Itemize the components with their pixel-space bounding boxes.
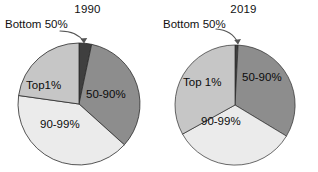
slice-label-50-90-1990: 50-90% xyxy=(86,88,126,101)
pie-slices-1990 xyxy=(18,43,140,165)
pie-slices-2019 xyxy=(175,45,295,165)
slice-label-top-1-2019: Top 1% xyxy=(183,76,221,89)
slice-label-90-99-2019: 90-99% xyxy=(201,115,241,128)
pie-chart-figure: 1990 Bottom 50% Top1% 50-90% 90-99% xyxy=(0,0,318,172)
slice-label-50-90-2019: 50-90% xyxy=(242,71,282,84)
chart-panel-1990: 1990 Bottom 50% Top1% 50-90% 90-99% xyxy=(0,0,159,172)
callout-leader-1990 xyxy=(60,31,87,44)
pie-slice-top-1-1990 xyxy=(19,43,79,104)
callout-leader-2019 xyxy=(216,29,241,45)
chart-panel-2019: 2019 Bottom 50% Top 1% 50-90% 90-99% xyxy=(159,0,318,172)
pie-svg-1990 xyxy=(0,0,159,172)
slice-label-top-1-1990: Top1% xyxy=(26,79,61,92)
slice-label-90-99-1990: 90-99% xyxy=(40,118,80,131)
